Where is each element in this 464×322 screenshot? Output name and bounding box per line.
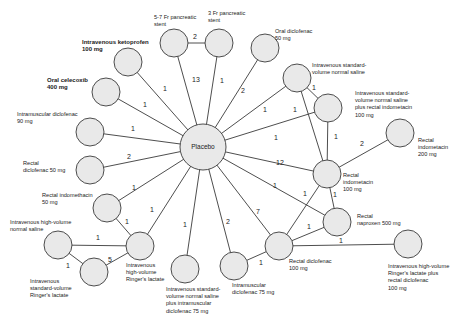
node-iv_hv_ns	[44, 231, 72, 259]
node-label-iv_hv_rl_rectal_dic: Intravenous high-volume Ringer's lactate…	[388, 263, 449, 292]
node-label-iv_sv_ns: Intravenous standard- volume normal sali…	[312, 62, 366, 76]
edge-count-label: 1	[339, 237, 343, 244]
edge-count-label: 1	[183, 221, 187, 228]
edge-count-label: 1	[132, 184, 136, 191]
node-label-im_diclofenac_90: Intramuscular diclofenac 90 mg	[17, 111, 78, 125]
node-rectal_indomethacin_200	[386, 119, 414, 147]
edge-count-label: 1	[273, 182, 277, 189]
edge-count-label: 2	[241, 87, 245, 94]
edge-count-label: 1	[312, 84, 316, 91]
node-label-rectal_diclofenac_100: Rectal diclofenac 100 mg	[289, 258, 332, 272]
node-label-rectal_naproxen_500: Rectal naproxen 500 mg	[357, 213, 401, 227]
edge-count-label: 1	[303, 190, 307, 197]
edge-count-label: 5	[108, 256, 112, 263]
placebo-node: Placebo	[180, 124, 226, 170]
node-iv_sv_ns_rectal_indo	[314, 94, 342, 122]
edge-count-label: 2	[360, 140, 364, 147]
node-label-rectal_indomethacin_200: Rectal indometacin 200 mg	[418, 137, 448, 159]
edge-count-label: 1	[96, 234, 100, 241]
edge-count-label: 1	[293, 106, 297, 113]
node-rectal_diclofenac_50	[76, 156, 104, 184]
node-label-oral_diclofenac: Oral diclofenac 50 mg	[275, 28, 312, 42]
node-label-rectal_indomethacin_100: Rectal indometacin 100 mg	[343, 172, 373, 194]
edge-count-label: 7	[256, 208, 260, 215]
edge-count-label: 12	[276, 159, 284, 166]
node-label-rectal_diclofenac_50: Rectal diclofenac 50 mg	[23, 160, 65, 174]
node-im_diclofenac_90	[76, 118, 104, 146]
edge-count-label: 1	[66, 262, 70, 269]
node-label-iv_hv_rl: Intravenous high-volume Ringer's lactate	[126, 262, 164, 284]
edge-count-label: 1	[125, 218, 129, 225]
node-iv_sv_rl	[80, 258, 108, 286]
edges-layer	[58, 43, 408, 272]
placebo-label: Placebo	[191, 143, 215, 150]
node-stent_3fr	[205, 29, 233, 57]
node-oral_celecoxib	[92, 78, 120, 106]
node-iv_sv_ns	[283, 64, 311, 92]
node-label-oral_celecoxib: Oral celecoxib 400 mg	[47, 77, 88, 91]
node-rectal_indomethacin_50	[93, 194, 121, 222]
edge-count-label: 1	[131, 125, 135, 132]
node-label-stent_3fr: 3 Fr pancreatic stent	[208, 10, 245, 24]
edge-count-label: 1	[143, 101, 147, 108]
edge-count-label: 2	[127, 153, 131, 160]
node-label-iv_ketoprofen: Intravenous ketoprofen 100 mg	[82, 39, 149, 53]
node-rectal_naproxen_500	[323, 208, 351, 236]
edge-count-label: 1	[274, 134, 278, 141]
edge-count-label: 1	[259, 259, 263, 266]
node-label-iv_sv_rl: Intravenous standard-volume Ringer's lac…	[30, 278, 72, 300]
edge-count-label: 1	[163, 85, 167, 92]
node-label-iv_sv_ns_rectal_indo: Intravenous standard- volume normal sali…	[355, 90, 412, 119]
edge-rectal_diclofenac_100-iv_hv_rl_rectal_dic	[279, 244, 408, 246]
node-label-iv_sv_ns_im_dic: Intravenous standard- volume normal sali…	[166, 286, 220, 315]
edge-count-label: 13	[192, 76, 200, 83]
edge-count-label: 1	[220, 77, 224, 84]
node-label-stent_5_7fr: 5-7 Fr pancreatic stent	[154, 14, 196, 28]
node-rectal_diclofenac_100	[265, 232, 293, 260]
node-label-rectal_indomethacin_50: Rectal indomethacin 50 mg	[42, 192, 93, 206]
node-label-iv_hv_ns: Intravenous high-volume normal saline	[10, 219, 71, 233]
node-label-im_diclofenac_75: Intramuscular diclofenac 75 mg	[232, 282, 274, 296]
edge-count-label: 1	[150, 206, 154, 213]
edge-count-label: 1	[334, 133, 338, 140]
node-iv_hv_rl_rectal_dic	[394, 230, 422, 258]
edge-count-label: 2	[193, 33, 197, 40]
edge-count-label: 1	[333, 191, 337, 198]
edge-count-label: 1	[263, 106, 267, 113]
edge-count-label: 1	[307, 223, 311, 230]
node-iv_sv_ns_im_dic	[171, 255, 199, 283]
node-im_diclofenac_75	[220, 252, 248, 280]
node-iv_hv_rl	[126, 232, 154, 260]
node-rectal_indomethacin_100	[313, 160, 341, 188]
edge-count-label: 2	[226, 218, 230, 225]
node-stent_5_7fr	[160, 29, 188, 57]
